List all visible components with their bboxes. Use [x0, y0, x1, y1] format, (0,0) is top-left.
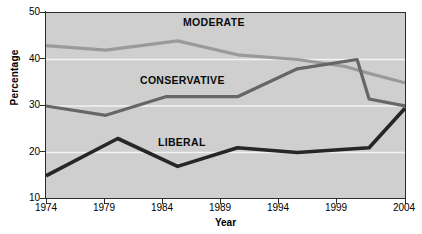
x-tick-label-1989: 1989: [200, 202, 240, 213]
series-line-liberal: [46, 108, 405, 176]
x-axis-title: Year: [46, 217, 405, 228]
y-axis-line: [45, 11, 46, 199]
y-axis-tick-labels: 50 40 30 20 10: [12, 0, 40, 234]
plot-area: MODERATE CONSERVATIVE LIBERAL: [46, 12, 406, 199]
x-tick-label-1999: 1999: [316, 202, 356, 213]
x-tick-label-1994: 1994: [258, 202, 298, 213]
x-tick-label-1974: 1974: [26, 202, 66, 213]
plot-svg: [46, 13, 405, 199]
y-tick-label-40: 40: [16, 54, 40, 64]
x-tick-label-1979: 1979: [84, 202, 124, 213]
y-tick-label-50: 50: [16, 7, 40, 17]
x-tick-label-2004: 2004: [384, 202, 422, 213]
x-tick-label-1984: 1984: [142, 202, 182, 213]
series-label-liberal: LIBERAL: [158, 136, 206, 148]
x-axis-line: [45, 198, 406, 199]
x-axis-tick-labels: 1974 1979 1984 1989 1994 1999 2004: [0, 202, 422, 216]
y-tick-label-30: 30: [16, 100, 40, 110]
y-tick-label-20: 20: [16, 147, 40, 157]
gridlines: [46, 60, 405, 153]
series-label-moderate: MODERATE: [183, 16, 245, 28]
line-chart: Percentage 50 40 30 20 10 MODERATE: [0, 0, 422, 234]
series-label-conservative: CONSERVATIVE: [140, 74, 225, 86]
